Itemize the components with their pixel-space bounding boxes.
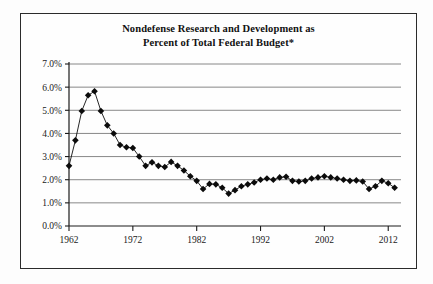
data-point-marker xyxy=(353,177,360,184)
x-axis-tick-labels: 196219721982199220022012 xyxy=(60,235,398,245)
data-point-marker xyxy=(123,144,130,151)
data-point-marker xyxy=(98,108,105,115)
y-axis-tick-labels: 0.0%1.0%2.0%3.0%4.0%5.0%6.0%7.0% xyxy=(42,59,62,231)
y-tick-label-0: 0.0% xyxy=(42,221,62,231)
data-point-marker xyxy=(251,179,258,186)
data-point-marker xyxy=(85,92,92,99)
data-point-marker xyxy=(264,175,271,182)
data-series-group xyxy=(69,91,395,193)
data-point-marker xyxy=(257,176,264,183)
data-point-marker xyxy=(117,142,124,149)
y-tick-label-3: 3.0% xyxy=(42,152,62,162)
y-tick-label-2: 2.0% xyxy=(42,175,62,185)
y-tick-label-4: 4.0% xyxy=(42,129,62,139)
data-point-marker xyxy=(142,163,149,170)
data-point-marker xyxy=(289,178,296,185)
data-point-marker xyxy=(302,178,309,185)
data-point-marker xyxy=(149,159,156,166)
data-point-marker xyxy=(334,175,341,182)
x-tick-label-5: 2012 xyxy=(379,235,398,245)
y-tick-label-7: 7.0% xyxy=(42,59,62,69)
data-point-marker xyxy=(321,173,328,180)
data-point-marker xyxy=(340,176,347,183)
data-point-marker xyxy=(238,183,245,190)
data-point-marker xyxy=(213,181,220,188)
x-tick-label-3: 1992 xyxy=(251,235,270,245)
data-point-marker xyxy=(296,178,303,185)
series-line-nondefense-rd xyxy=(69,91,395,193)
line-chart-svg: 0.0%1.0%2.0%3.0%4.0%5.0%6.0%7.0% 1962197… xyxy=(21,14,418,270)
data-point-marker xyxy=(136,153,143,160)
data-point-marker xyxy=(347,178,354,185)
data-point-marker xyxy=(270,176,277,183)
data-point-marker xyxy=(155,163,162,170)
x-tick-label-1: 1972 xyxy=(123,235,142,245)
data-point-marker xyxy=(130,145,137,152)
y-tick-label-6: 6.0% xyxy=(42,83,62,93)
y-tick-label-1: 1.0% xyxy=(42,198,62,208)
data-point-marker xyxy=(232,187,239,194)
chart-frame: Nondefense Research and Development as P… xyxy=(20,13,417,269)
data-point-marker xyxy=(78,108,85,115)
data-point-marker xyxy=(66,163,73,170)
data-point-marker xyxy=(385,180,392,187)
x-tick-marks-group xyxy=(69,226,388,231)
data-point-markers-group xyxy=(66,88,398,197)
y-tick-label-5: 5.0% xyxy=(42,106,62,116)
x-tick-label-2: 1982 xyxy=(187,235,206,245)
chart-page: Nondefense Research and Development as P… xyxy=(0,0,433,284)
data-point-marker xyxy=(308,175,315,182)
x-tick-label-4: 2002 xyxy=(315,235,334,245)
data-point-marker xyxy=(391,185,398,192)
data-point-marker xyxy=(244,181,251,188)
plot-area: 0.0%1.0%2.0%3.0%4.0%5.0%6.0%7.0% 1962197… xyxy=(21,14,418,270)
data-point-marker xyxy=(72,137,79,144)
x-tick-label-0: 1962 xyxy=(60,235,79,245)
data-point-marker xyxy=(283,173,290,180)
data-point-marker xyxy=(174,163,181,170)
data-point-marker xyxy=(91,88,98,95)
